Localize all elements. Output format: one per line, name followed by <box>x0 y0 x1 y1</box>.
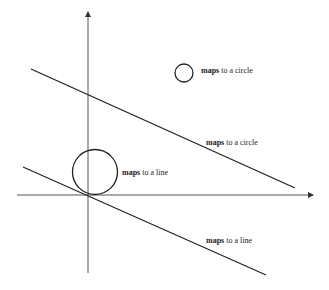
small-circle <box>175 64 193 82</box>
upper-line-label: maps to a circle <box>206 138 258 147</box>
lower-line-through-origin <box>23 167 266 275</box>
lower-line-label: maps to a line <box>206 236 252 245</box>
small-circle-label: maps to a circle <box>201 66 253 75</box>
large-circle-label: maps to a line <box>122 168 168 177</box>
inversion-diagram: maps to a circle maps to a circle maps t… <box>0 0 329 290</box>
large-circle-through-origin <box>73 150 118 195</box>
